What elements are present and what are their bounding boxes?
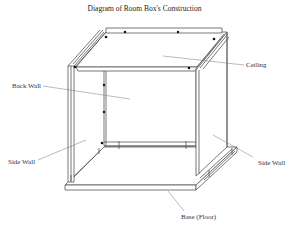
label-ceiling: Ceiling xyxy=(246,61,267,69)
label-back-wall: Back Wall xyxy=(12,82,41,90)
fastener-icon xyxy=(105,36,108,39)
fastener-icon xyxy=(177,31,179,33)
fastener-icon xyxy=(103,111,105,113)
fastener-icon xyxy=(74,66,77,69)
fastener-icon xyxy=(188,67,191,70)
fastener-icon xyxy=(101,142,104,145)
label-side-wall-left: Side Wall xyxy=(8,158,35,166)
back-wall xyxy=(104,70,196,146)
room-box-diagram: Ceiling Back Wall Side Wall Side Wall Ba… xyxy=(0,0,289,229)
fastener-icon xyxy=(213,38,216,41)
fastener-icon xyxy=(103,84,105,86)
fastener-icon xyxy=(124,31,126,33)
label-base: Base (Floor) xyxy=(181,213,217,221)
label-side-wall-right: Side Wall xyxy=(258,159,285,167)
